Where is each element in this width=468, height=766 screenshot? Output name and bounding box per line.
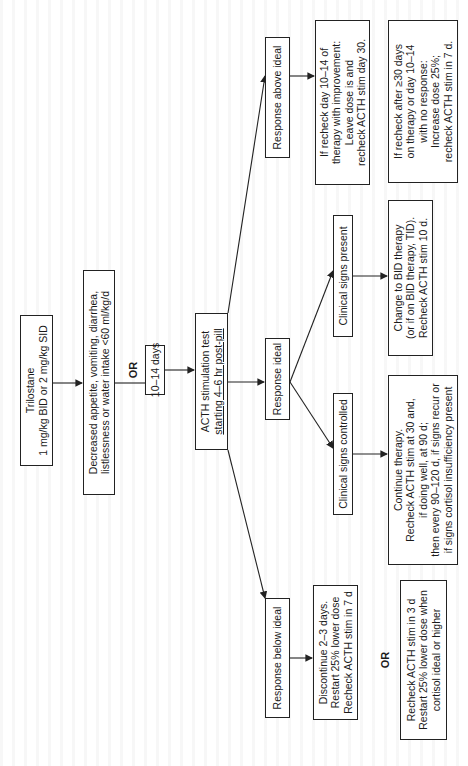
recheck-line-2: Restart 25% lower dose when bbox=[417, 590, 430, 730]
recheck-line-3: cortisol ideal or higher bbox=[430, 609, 443, 712]
recheck-line-1: Recheck ACTH stim in 3 d bbox=[405, 599, 418, 722]
signs-present-label: Clinical signs present bbox=[337, 226, 350, 325]
timing-box: 10–14 days bbox=[145, 345, 165, 395]
or-label-bottom: OR bbox=[379, 652, 391, 669]
discontinue-line-3: Recheck ACTH stim in 7 d bbox=[342, 591, 355, 714]
improvement-line-1: If recheck day 10–14 of bbox=[318, 48, 331, 157]
bid-line-3: Recheck ACTH stim 10 d. bbox=[417, 218, 430, 338]
bid-line-2: (or if on BID therapy, TID). bbox=[404, 217, 417, 339]
acth-line-2: starting 4–6 hr post-pill bbox=[212, 328, 225, 434]
response-below-ideal-box: Response below ideal bbox=[265, 598, 290, 718]
response-below-label: Response below ideal bbox=[271, 607, 284, 710]
or-label-top: OR bbox=[127, 362, 139, 379]
continue-therapy-box: Continue therapy. Recheck ACTH stim at 3… bbox=[388, 375, 458, 565]
timing-label: 10–14 days bbox=[149, 343, 162, 397]
improvement-line-3: Leave dose is and bbox=[343, 60, 356, 145]
acth-stim-test-box: ACTH stimulation test starting 4–6 hr po… bbox=[195, 313, 228, 450]
adverse-signs-box: Decreased appetite, vomiting, diarrhea, … bbox=[83, 270, 115, 495]
above-no-response-box: If recheck after ≥30 days on therapy or … bbox=[388, 20, 458, 183]
bid-line-1: Change to BID therapy bbox=[392, 225, 405, 332]
trilostane-label: Trilostane bbox=[24, 368, 37, 414]
continue-line-1: Continue therapy. bbox=[392, 429, 405, 511]
clinical-signs-controlled-box: Clinical signs controlled bbox=[333, 393, 353, 515]
flowchart-canvas: Trilostane 1 mg/kg BID or 2 mg/kg SID De… bbox=[0, 0, 468, 766]
response-above-ideal-box: Response above ideal bbox=[265, 37, 290, 158]
above-improvement-box: If recheck day 10–14 of therapy with imp… bbox=[315, 20, 370, 185]
adverse-signs-line-2: listlessness or water intake <60 ml/kg/d bbox=[99, 291, 112, 474]
no-response-line-2: on therapy or day 10–14 bbox=[404, 45, 417, 159]
adverse-signs-line-1: Decreased appetite, vomiting, diarrhea, bbox=[87, 291, 100, 474]
response-ideal-label: Response ideal bbox=[271, 343, 284, 415]
no-response-line-3: with no response: bbox=[417, 60, 430, 142]
acth-line-1: ACTH stimulation test bbox=[199, 331, 212, 433]
signs-controlled-label: Clinical signs controlled bbox=[337, 399, 350, 509]
response-above-label: Response above ideal bbox=[271, 46, 284, 150]
recheck-3d-box: Recheck ACTH stim in 3 d Restart 25% low… bbox=[400, 580, 447, 740]
clinical-signs-present-box: Clinical signs present bbox=[333, 215, 353, 337]
continue-line-3: if doing well, at 90 d; bbox=[417, 422, 430, 518]
no-response-line-5: recheck ACTH stim in 7 d. bbox=[442, 41, 455, 162]
improvement-line-2: therapy with improvement: bbox=[330, 41, 343, 164]
dose-label: 1 mg/kg BID or 2 mg/kg SID bbox=[37, 325, 50, 456]
discontinue-line-2: Restart 25% lower dose bbox=[329, 597, 342, 708]
continue-line-5: if signs cortisol insufficiency present bbox=[442, 387, 455, 554]
trilostane-dose-box: Trilostane 1 mg/kg BID or 2 mg/kg SID bbox=[20, 315, 53, 466]
continue-line-4: then every 90–120 d, if signs recur or bbox=[429, 383, 442, 556]
no-response-line-4: Increase dose 25%; bbox=[429, 55, 442, 148]
response-ideal-box: Response ideal bbox=[265, 338, 290, 420]
discontinue-line-1: Discontinue 2–3 days. bbox=[317, 601, 330, 704]
discontinue-box: Discontinue 2–3 days. Restart 25% lower … bbox=[313, 585, 358, 720]
continue-line-2: Recheck ACTH stim at 30 and, bbox=[404, 398, 417, 542]
change-to-bid-box: Change to BID therapy (or if on BID ther… bbox=[388, 200, 433, 356]
improvement-line-4: recheck ACTH stim day 30. bbox=[355, 39, 368, 166]
no-response-line-1: If recheck after ≥30 days bbox=[392, 44, 405, 159]
